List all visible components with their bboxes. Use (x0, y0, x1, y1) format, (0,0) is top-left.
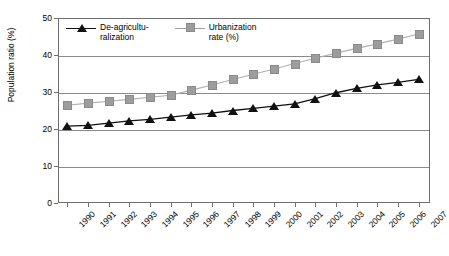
x-tick-mark (357, 203, 358, 207)
plot-area (58, 18, 430, 203)
y-tick-label-30: 30 (28, 88, 52, 96)
x-tick-mark (419, 203, 420, 207)
x-tick-label: 1991 (98, 209, 118, 229)
legend-entry-urbanization-rate: Urbanization rate (%) (175, 22, 257, 42)
x-tick-label: 2000 (284, 209, 304, 229)
x-tick-label: 1994 (160, 209, 180, 229)
legend-label-de-agriculturalization: De-agricultu- ralization (100, 22, 149, 42)
x-tick-mark (67, 203, 68, 207)
x-tick-mark (377, 203, 378, 207)
y-axis-title: Population ratio (%) (6, 5, 16, 125)
gridline-40 (59, 56, 429, 57)
x-tick-mark (315, 203, 316, 207)
x-tick-label: 2004 (366, 209, 386, 229)
chart-legend: De-agricultu- ralization Urbanization ra… (66, 22, 256, 42)
y-tick-label-0: 0 (28, 199, 52, 207)
x-tick-label: 2003 (346, 209, 366, 229)
x-tick-label: 1998 (242, 209, 262, 229)
x-tick-label: 2001 (304, 209, 324, 229)
y-tick-mark (54, 55, 58, 56)
gridline-10 (59, 167, 429, 168)
x-tick-label: 1995 (180, 209, 200, 229)
x-tick-mark (109, 203, 110, 207)
y-tick-label-20: 20 (28, 125, 52, 133)
x-tick-label: 1993 (139, 209, 159, 229)
x-tick-mark (253, 203, 254, 207)
x-tick-label: 1997 (222, 209, 242, 229)
x-tick-mark (295, 203, 296, 207)
x-tick-mark (150, 203, 151, 207)
gridline-20 (59, 130, 429, 131)
x-tick-mark (233, 203, 234, 207)
x-tick-label: 2006 (408, 209, 428, 229)
y-tick-mark (54, 166, 58, 167)
triangle-marker-icon (66, 23, 96, 34)
square-marker-icon (175, 23, 205, 34)
x-tick-mark (191, 203, 192, 207)
x-tick-mark (274, 203, 275, 207)
legend-entry-de-agriculturalization: De-agricultu- ralization (66, 22, 149, 42)
x-tick-mark (398, 203, 399, 207)
x-tick-mark (129, 203, 130, 207)
x-tick-mark (171, 203, 172, 207)
x-tick-mark (212, 203, 213, 207)
x-tick-label: 1990 (77, 209, 97, 229)
legend-label-urbanization-rate: Urbanization rate (%) (209, 22, 257, 42)
y-tick-mark (54, 203, 58, 204)
y-tick-mark (54, 129, 58, 130)
x-tick-label: 2005 (387, 209, 407, 229)
gridline-30 (59, 93, 429, 94)
x-tick-label: 2002 (325, 209, 345, 229)
y-tick-label-50: 50 (28, 14, 52, 22)
x-tick-label: 1992 (118, 209, 138, 229)
y-tick-mark (54, 92, 58, 93)
y-tick-label-40: 40 (28, 51, 52, 59)
x-tick-mark (336, 203, 337, 207)
x-tick-mark (88, 203, 89, 207)
x-tick-label: 1999 (263, 209, 283, 229)
x-tick-label: 2007 (428, 209, 448, 229)
y-tick-label-10: 10 (28, 162, 52, 170)
x-tick-label: 1996 (201, 209, 221, 229)
y-tick-mark (54, 18, 58, 19)
